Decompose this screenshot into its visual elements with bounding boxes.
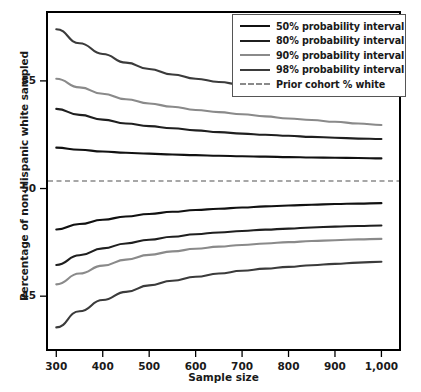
legend-item: Prior cohort % white bbox=[237, 77, 401, 92]
legend-label: 90% probability interval bbox=[276, 50, 404, 61]
legend-line-swatch bbox=[240, 54, 270, 56]
legend-label: Prior cohort % white bbox=[276, 79, 385, 90]
legend-line-swatch bbox=[240, 25, 270, 27]
chart-figure: 455055 3004005006007008009001,000 Percen… bbox=[0, 0, 421, 392]
legend-item: 50% probability interval bbox=[237, 19, 401, 34]
legend-item: 98% probability interval bbox=[237, 63, 401, 78]
chart-legend: 50% probability interval80% probability … bbox=[232, 14, 406, 97]
x-axis-title: Sample size bbox=[47, 371, 400, 383]
legend-line-swatch bbox=[240, 69, 270, 71]
interval-curve bbox=[56, 239, 381, 284]
interval-curve bbox=[56, 148, 381, 159]
x-axis-ticks bbox=[56, 350, 381, 357]
legend-label: 80% probability interval bbox=[276, 35, 404, 46]
interval-curve bbox=[56, 262, 381, 328]
legend-item: 90% probability interval bbox=[237, 48, 401, 63]
interval-curve bbox=[56, 226, 381, 265]
legend-line-swatch bbox=[240, 83, 270, 85]
legend-label: 98% probability interval bbox=[276, 64, 404, 75]
y-axis-title: Percentage of non-Hispanic white sampled bbox=[18, 46, 30, 306]
legend-label: 50% probability interval bbox=[276, 21, 404, 32]
y-axis-ticks bbox=[40, 81, 47, 296]
legend-line-swatch bbox=[240, 40, 270, 42]
interval-curve bbox=[56, 203, 381, 229]
interval-curve bbox=[56, 109, 381, 139]
legend-item: 80% probability interval bbox=[237, 34, 401, 49]
